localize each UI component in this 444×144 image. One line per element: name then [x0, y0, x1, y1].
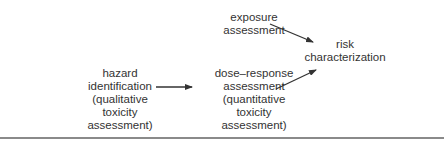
- arrow-exposure-to-risk: [270, 24, 313, 42]
- arrow-dose-response-to-risk: [276, 70, 316, 89]
- arrows-layer: [0, 0, 444, 144]
- bottom-divider: [0, 137, 444, 139]
